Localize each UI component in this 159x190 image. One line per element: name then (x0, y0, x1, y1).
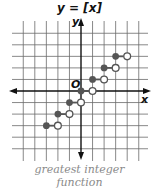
caption-line-2: function (0, 176, 159, 189)
step-segment (55, 111, 73, 118)
open-dot-icon (101, 76, 108, 83)
closed-dot-icon (89, 76, 96, 83)
x-axis-left-arrow-icon (9, 88, 17, 94)
step-segment (43, 122, 61, 129)
open-dot-icon (124, 53, 131, 60)
caption-line-1: greatest integer (0, 163, 159, 176)
open-dot-icon (78, 99, 85, 106)
y-axis-down-arrow-icon (78, 152, 84, 160)
step-segment (66, 99, 84, 106)
step-segment (89, 76, 107, 83)
open-dot-icon (112, 65, 119, 72)
open-dot-icon (66, 111, 73, 118)
closed-dot-icon (55, 111, 62, 118)
open-dot-icon (89, 88, 96, 95)
step-segment (101, 65, 119, 72)
closed-dot-icon (43, 122, 50, 129)
y-axis-label: y (72, 15, 79, 28)
closed-dot-icon (66, 99, 73, 106)
open-dot-icon (55, 122, 62, 129)
coordinate-grid (0, 0, 159, 190)
step-segment (112, 53, 130, 60)
closed-dot-icon (101, 65, 108, 72)
closed-dot-icon (112, 53, 119, 60)
origin-label: O (71, 78, 80, 91)
x-axis-label: x (141, 93, 148, 106)
